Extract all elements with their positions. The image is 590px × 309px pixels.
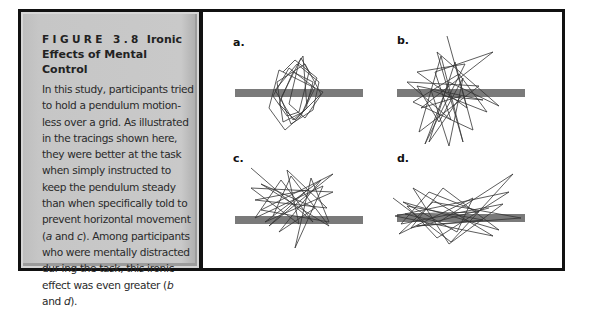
pendulum-tracings bbox=[203, 12, 562, 268]
caption-panel: FIGURE 3.8 Ironic Effects of Mental Cont… bbox=[21, 12, 199, 268]
caption-content: FIGURE 3.8 Ironic Effects of Mental Cont… bbox=[42, 28, 194, 309]
tracings-area: a. b. c. d. bbox=[203, 12, 562, 268]
figure-number: FIGURE 3.8 bbox=[42, 33, 142, 45]
figure-title-line1: Ironic bbox=[147, 33, 182, 46]
caption-text: ). bbox=[70, 295, 77, 307]
figure-frame: FIGURE 3.8 Ironic Effects of Mental Cont… bbox=[18, 9, 565, 271]
caption-text: and bbox=[52, 230, 77, 242]
figure-caption: In this study, participants tried to hol… bbox=[42, 81, 194, 309]
tracing-c bbox=[251, 168, 333, 248]
figure-heading: FIGURE 3.8 Ironic bbox=[42, 28, 194, 47]
caption-text: and bbox=[42, 295, 64, 307]
caption-text: In this study, participants tried to hol… bbox=[42, 83, 194, 242]
figure-title-line2: Effects of Mental Control bbox=[42, 47, 194, 77]
tracing-d bbox=[393, 174, 521, 244]
caption-ref-b: b bbox=[167, 279, 173, 291]
grid-bar-a bbox=[235, 89, 363, 97]
